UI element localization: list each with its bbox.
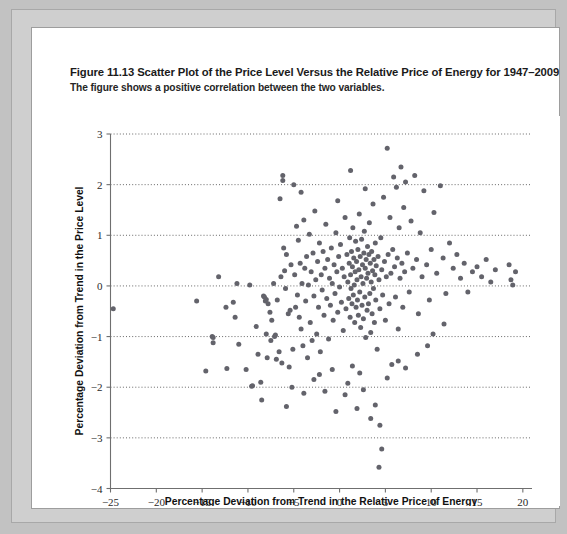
data-point bbox=[330, 281, 335, 286]
data-point bbox=[323, 222, 328, 227]
data-point bbox=[356, 313, 361, 318]
figure-outer-frame: Figure 11.13 Scatter Plot of the Price L… bbox=[11, 9, 556, 523]
scatter-plot: −4−3−2−10123−25−20−15−10−505101520 Perce… bbox=[70, 116, 560, 506]
data-point bbox=[326, 337, 331, 342]
data-point bbox=[336, 254, 341, 259]
data-point bbox=[363, 186, 368, 191]
data-point bbox=[410, 266, 415, 271]
data-point bbox=[224, 366, 229, 371]
data-point bbox=[431, 210, 436, 215]
data-point bbox=[284, 404, 289, 409]
data-point bbox=[375, 347, 380, 352]
data-point bbox=[280, 173, 285, 178]
data-point bbox=[405, 251, 410, 256]
y-tick-label: 3 bbox=[97, 128, 103, 140]
data-point bbox=[369, 279, 374, 284]
data-point bbox=[366, 301, 371, 306]
data-point bbox=[293, 305, 298, 310]
data-point bbox=[333, 409, 338, 414]
data-point bbox=[324, 296, 329, 301]
data-point bbox=[300, 281, 305, 286]
data-point bbox=[290, 347, 295, 352]
data-point bbox=[282, 268, 287, 273]
x-tick-label: −20 bbox=[148, 496, 166, 507]
data-point bbox=[339, 300, 344, 305]
data-point bbox=[355, 247, 360, 252]
data-point bbox=[401, 205, 406, 210]
data-point bbox=[258, 380, 263, 385]
data-point bbox=[308, 320, 313, 325]
data-point bbox=[234, 281, 239, 286]
data-point bbox=[312, 208, 317, 213]
data-point bbox=[291, 182, 296, 187]
data-point bbox=[256, 352, 261, 357]
data-point bbox=[244, 367, 249, 372]
data-point bbox=[361, 387, 366, 392]
data-point bbox=[353, 239, 358, 244]
data-point bbox=[361, 251, 366, 256]
data-point bbox=[420, 274, 425, 279]
data-point bbox=[350, 363, 355, 368]
data-point bbox=[269, 318, 274, 323]
data-point bbox=[475, 264, 480, 269]
data-point bbox=[318, 349, 323, 354]
data-point bbox=[454, 252, 459, 257]
data-point bbox=[424, 262, 429, 267]
data-point bbox=[283, 286, 288, 291]
data-point bbox=[425, 343, 430, 348]
data-point bbox=[271, 281, 276, 286]
data-point bbox=[314, 332, 319, 337]
data-point bbox=[335, 310, 340, 315]
data-point bbox=[381, 195, 386, 200]
data-point bbox=[369, 249, 374, 254]
data-point bbox=[427, 298, 432, 303]
data-point bbox=[415, 352, 420, 357]
data-point bbox=[304, 254, 309, 259]
data-point bbox=[354, 305, 359, 310]
axis-frame bbox=[111, 134, 533, 489]
data-point bbox=[322, 389, 327, 394]
data-point bbox=[332, 291, 337, 296]
data-point bbox=[447, 240, 452, 245]
data-point bbox=[351, 293, 356, 298]
data-point bbox=[365, 271, 370, 276]
data-point bbox=[393, 295, 398, 300]
data-point bbox=[343, 306, 348, 311]
data-point bbox=[354, 259, 359, 264]
data-point bbox=[376, 254, 381, 259]
data-point bbox=[354, 277, 359, 282]
data-point bbox=[313, 277, 318, 282]
data-point bbox=[367, 291, 372, 296]
data-point bbox=[374, 263, 379, 268]
data-point bbox=[379, 447, 384, 452]
data-point bbox=[278, 274, 283, 279]
data-point bbox=[403, 180, 408, 185]
data-point bbox=[343, 215, 348, 220]
data-point bbox=[414, 257, 419, 262]
data-point bbox=[320, 287, 325, 292]
data-point bbox=[376, 465, 381, 470]
data-point bbox=[429, 247, 434, 252]
data-point bbox=[385, 146, 390, 151]
data-point bbox=[407, 290, 412, 295]
data-point bbox=[317, 372, 322, 377]
data-point bbox=[296, 238, 301, 243]
x-axis-title: Percentage Deviation from Trend in the R… bbox=[165, 496, 478, 506]
data-point bbox=[298, 261, 303, 266]
data-point bbox=[383, 318, 388, 323]
data-point bbox=[358, 325, 363, 330]
data-point bbox=[303, 299, 308, 304]
data-point bbox=[266, 301, 271, 306]
data-point bbox=[402, 269, 407, 274]
data-point bbox=[280, 178, 285, 183]
data-point bbox=[357, 290, 362, 295]
data-point bbox=[311, 294, 316, 299]
data-point bbox=[348, 315, 353, 320]
data-point bbox=[346, 296, 351, 301]
data-point bbox=[292, 272, 297, 277]
data-point bbox=[462, 261, 467, 266]
tickmarks bbox=[107, 134, 523, 493]
data-point bbox=[380, 293, 385, 298]
data-point bbox=[387, 301, 392, 306]
data-point bbox=[334, 269, 339, 274]
